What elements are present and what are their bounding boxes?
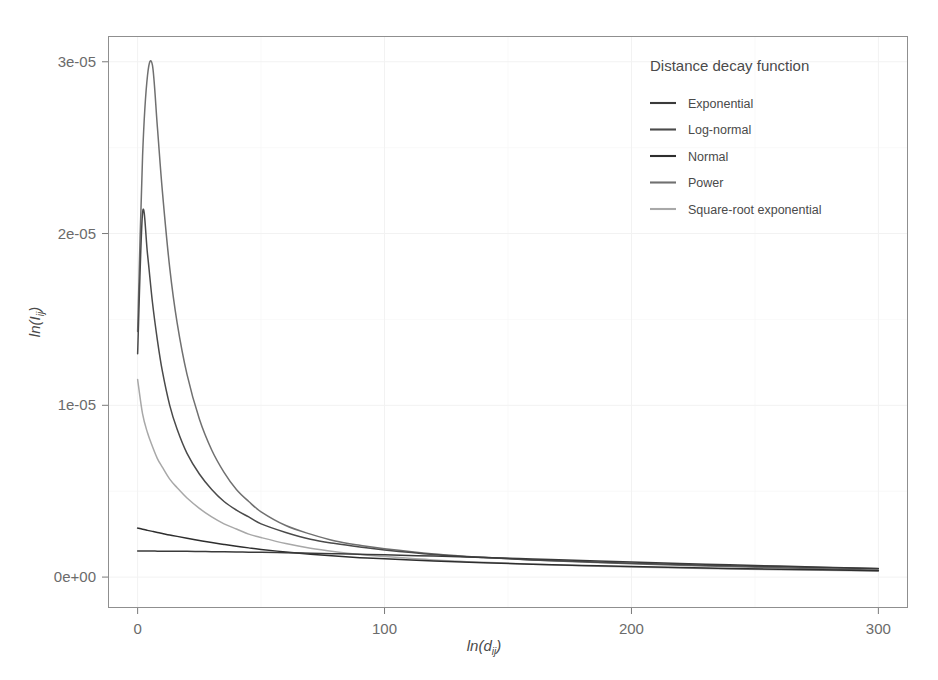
legend-entry-label: Normal: [688, 150, 728, 164]
chart-figure: 0100200300 0e+001e-052e-053e-05 ln(dij) …: [0, 0, 938, 680]
x-tick-label: 0: [133, 620, 141, 637]
legend-entry-label: Log-normal: [688, 123, 751, 137]
legend-entry-label: Exponential: [688, 97, 753, 111]
legend-entry-label: Square-root exponential: [688, 203, 821, 217]
legend-entry-label: Power: [688, 176, 723, 190]
y-tick-label: 3e-05: [58, 53, 96, 70]
y-tick-label: 1e-05: [58, 396, 96, 413]
y-tick-label: 2e-05: [58, 225, 96, 242]
y-tick-label: 0e+00: [54, 568, 96, 585]
x-tick-label: 300: [866, 620, 891, 637]
distance-decay-plot: 0100200300 0e+001e-052e-053e-05 ln(dij) …: [0, 0, 938, 680]
x-tick-label: 100: [372, 620, 397, 637]
legend-title: Distance decay function: [650, 57, 809, 74]
x-tick-label: 200: [619, 620, 644, 637]
